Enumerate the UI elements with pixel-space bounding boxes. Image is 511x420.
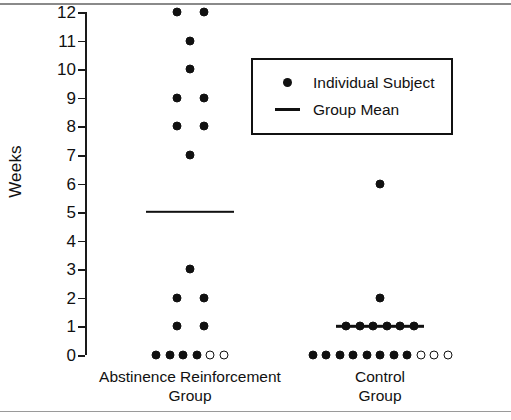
data-point	[206, 351, 215, 360]
data-point	[192, 351, 201, 360]
tick-label: 3	[67, 261, 76, 278]
tick-label: 6	[67, 175, 76, 192]
tick-mark	[78, 298, 85, 300]
data-point	[403, 351, 412, 360]
data-point	[172, 322, 181, 331]
group-label-control: ControlGroup	[355, 367, 405, 405]
tick-mark	[78, 155, 85, 157]
data-point	[199, 322, 208, 331]
legend-label-individual-subject: Individual Subject	[307, 74, 435, 92]
group-mean-line	[336, 325, 424, 327]
data-point	[308, 351, 317, 360]
data-point	[199, 8, 208, 17]
data-point	[186, 150, 195, 159]
tick-mark	[78, 98, 85, 100]
data-point	[199, 122, 208, 131]
data-point	[376, 351, 385, 360]
tick-mark	[78, 241, 85, 243]
tick-label: 0	[67, 347, 76, 364]
data-point	[362, 351, 371, 360]
tick-label: 11	[58, 32, 76, 49]
data-point	[186, 36, 195, 45]
tick-mark	[78, 126, 85, 128]
tick-label: 9	[67, 89, 76, 106]
group-label-line1: Control	[355, 367, 405, 386]
data-point	[389, 351, 398, 360]
y-axis-line	[85, 12, 87, 355]
tick-label: 1	[67, 318, 76, 335]
data-point	[430, 351, 439, 360]
data-point	[186, 65, 195, 74]
tick-label: 2	[67, 289, 76, 306]
tick-label: 10	[57, 61, 76, 78]
group-mean-line	[146, 211, 234, 213]
y-axis-title: Weeks	[6, 0, 26, 343]
tick-mark	[78, 269, 85, 271]
tick-label: 7	[67, 146, 76, 163]
group-label-abstinence-reinforcement: Abstinence ReinforcementGroup	[99, 367, 281, 405]
tick-label: 8	[67, 118, 76, 135]
tick-mark	[78, 41, 85, 43]
figure-top-rule	[0, 3, 511, 5]
data-point	[165, 351, 174, 360]
data-point	[179, 351, 188, 360]
group-label-line2: Group	[355, 386, 405, 405]
legend-item-individual-subject: Individual Subject	[267, 69, 435, 96]
tick-label: 4	[67, 232, 76, 249]
data-point	[172, 8, 181, 17]
data-point	[443, 351, 452, 360]
data-point	[199, 293, 208, 302]
data-point	[322, 351, 331, 360]
data-point	[376, 293, 385, 302]
chart-legend: Individual Subject Group Mean	[251, 58, 453, 135]
tick-label: 5	[67, 204, 76, 221]
data-point	[349, 351, 358, 360]
legend-label-group-mean: Group Mean	[307, 101, 399, 119]
group-label-line2: Group	[99, 386, 281, 405]
tick-mark	[78, 326, 85, 328]
horizontal-line-icon	[267, 108, 307, 110]
data-point	[172, 93, 181, 102]
data-point	[416, 351, 425, 360]
tick-label: 12	[57, 4, 76, 21]
tick-mark	[78, 212, 85, 214]
group-label-line1: Abstinence Reinforcement	[99, 367, 281, 386]
data-point	[335, 351, 344, 360]
data-point	[172, 293, 181, 302]
data-point	[219, 351, 228, 360]
tick-mark	[78, 355, 85, 357]
tick-mark	[78, 184, 85, 186]
data-point	[186, 265, 195, 274]
legend-item-group-mean: Group Mean	[267, 96, 435, 123]
tick-mark	[78, 69, 85, 71]
data-point	[376, 179, 385, 188]
data-point	[172, 122, 181, 131]
data-point	[152, 351, 161, 360]
filled-dot-icon	[267, 78, 307, 87]
tick-mark	[78, 12, 85, 14]
figure-bottom-rule	[0, 411, 511, 412]
data-point	[199, 93, 208, 102]
